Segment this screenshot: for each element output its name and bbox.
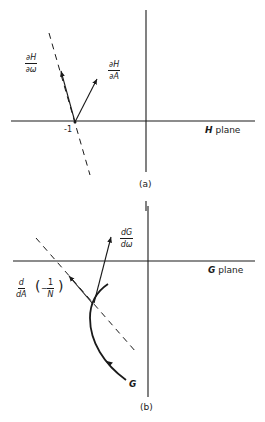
panel-a	[11, 10, 255, 211]
dg-domega-vector	[94, 237, 111, 303]
panel-b	[13, 206, 255, 397]
label-dg-domega-den: dω	[121, 239, 133, 249]
point-minus-one	[74, 121, 77, 124]
label-dh-domega-num: ∂H	[25, 53, 37, 64]
dh-domega-vector	[61, 71, 75, 122]
label-dh-da-num: ∂H	[108, 60, 120, 71]
label-g-plane-var: G	[208, 265, 215, 275]
caption-a: (a)	[139, 180, 152, 189]
d-da-minus-inv-n-vector	[69, 276, 93, 304]
label-open-paren: (	[35, 278, 40, 294]
dh-da-vector	[75, 79, 97, 122]
label-dh-da-den: ∂A	[109, 71, 119, 81]
label-dg-domega: dG dω	[120, 228, 133, 249]
label-h-plane-var: H	[205, 125, 213, 135]
label-dg-domega-num: dG	[120, 228, 133, 239]
label-dh-domega-den: ∂ω	[26, 64, 37, 74]
label-g-curve: G	[129, 380, 136, 389]
label-dh-da: ∂H ∂A	[108, 60, 120, 81]
label-h-plane-word: plane	[215, 125, 240, 135]
label-minus-one: -1	[64, 126, 72, 134]
label-d-da-num: d	[18, 278, 25, 289]
label-h-plane: H plane	[205, 126, 240, 135]
label-g-plane: G plane	[208, 266, 243, 275]
label-dh-domega: ∂H ∂ω	[25, 53, 37, 74]
label-one-over-n: 1 N	[47, 278, 54, 299]
label-g-plane-word: plane	[218, 265, 243, 275]
label-one-over-n-den: N	[48, 289, 54, 299]
label-close-paren: )	[58, 278, 63, 294]
label-d-da-den: dA	[16, 289, 27, 299]
caption-b: (b)	[140, 403, 153, 412]
label-one-over-n-num: 1	[47, 278, 54, 289]
figure-canvas	[0, 0, 265, 422]
label-d-da: d dA	[16, 278, 27, 299]
